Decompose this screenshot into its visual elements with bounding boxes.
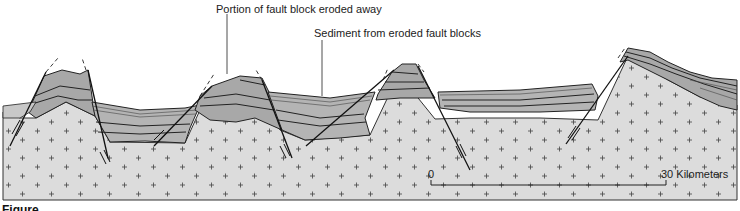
graben-3-sediment	[438, 84, 598, 112]
left-margin-sediment	[3, 102, 36, 118]
sediment-label: Sediment from eroded fault blocks	[314, 27, 481, 39]
figure-caption: Figure	[2, 203, 39, 211]
eroded-portion-label: Portion of fault block eroded away	[216, 3, 382, 15]
scale-bar-end-label: 30 Kilometers	[661, 168, 728, 180]
graben-1-sediment	[92, 102, 200, 143]
scale-bar-start-label: 0	[428, 168, 434, 180]
